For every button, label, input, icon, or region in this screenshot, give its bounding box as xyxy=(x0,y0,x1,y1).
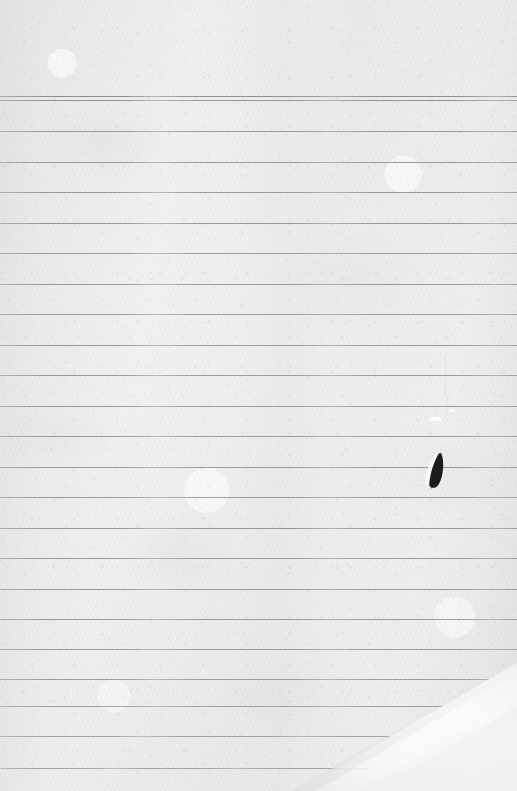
paper-crease xyxy=(447,398,448,416)
ruled-line xyxy=(0,679,517,680)
ruled-line xyxy=(0,345,517,346)
ruled-line xyxy=(0,131,517,132)
ruled-line xyxy=(0,736,470,737)
paper-scuff-fleck xyxy=(430,417,441,421)
paper-scuff-fleck xyxy=(449,409,455,412)
ruled-line xyxy=(0,100,517,101)
ruled-line xyxy=(0,768,372,769)
ruled-line xyxy=(0,467,517,468)
ruled-line xyxy=(0,192,517,193)
ruled-line xyxy=(0,589,517,590)
ruled-line xyxy=(0,406,517,407)
ruled-line xyxy=(0,314,517,315)
ruled-line xyxy=(0,619,517,620)
ruled-line xyxy=(0,162,517,163)
ruled-line xyxy=(0,253,517,254)
ruled-line xyxy=(0,436,517,437)
ruled-line xyxy=(0,649,517,650)
ruled-lines-layer xyxy=(0,0,517,791)
ruled-line xyxy=(0,558,517,559)
ruled-line xyxy=(0,497,517,498)
ruled-line xyxy=(0,96,517,97)
paper-crease xyxy=(445,350,446,396)
ruled-line xyxy=(0,706,517,707)
scanned-paper-page xyxy=(0,0,517,791)
ruled-line xyxy=(0,528,517,529)
ruled-line xyxy=(0,284,517,285)
ruled-line xyxy=(0,223,517,224)
ruled-line xyxy=(0,375,517,376)
